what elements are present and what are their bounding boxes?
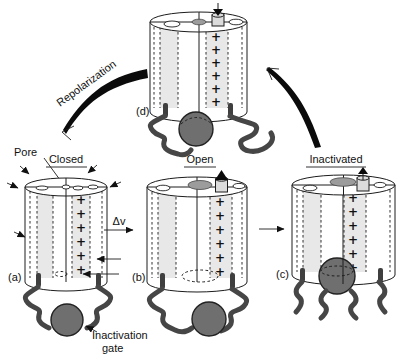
state-label-open: Open [187, 153, 214, 165]
subunit-opening [164, 21, 180, 27]
inactivation-ball [192, 302, 226, 336]
closed-pore-slit [88, 185, 98, 189]
panel-a-label: (a) [8, 271, 21, 283]
svg-text:+: + [76, 221, 86, 235]
svg-text:+: + [215, 237, 225, 251]
inactivation-ball [51, 304, 83, 336]
svg-text:+: + [348, 247, 358, 261]
svg-text:+: + [348, 233, 358, 247]
delta-v-label: Δv [113, 215, 126, 227]
state-label-inactivated: Inactivated [309, 153, 362, 165]
state-label-closed: Closed [49, 153, 83, 165]
closed-pore-slit [73, 186, 83, 190]
delta-v-arrow: Δv [104, 215, 133, 230]
panel-c-label: (c) [276, 268, 289, 280]
channel-gating-figure: Repolarization ++++++ (d) Por [0, 0, 405, 356]
subunit-opening [156, 185, 170, 191]
svg-text:+: + [76, 263, 86, 277]
channel-gating-diagram: Repolarization ++++++ (d) Por [0, 0, 405, 356]
voltage-sensor-band [303, 190, 321, 272]
channel-a-closed: ++++++ (a) [7, 165, 121, 336]
subunit-opening [229, 19, 243, 25]
voltage-sensor-band [160, 27, 178, 108]
svg-text:+: + [76, 207, 86, 221]
charge-column: ++++++ [76, 193, 86, 277]
plug-up-arrow-icon [215, 170, 228, 180]
charge-column: ++++++ [215, 195, 225, 279]
voltage-sensor-band [158, 192, 176, 278]
inactivation-gate-label-line2: gate [102, 342, 123, 354]
repolarization-arrow: Repolarization [54, 58, 148, 140]
tether-squiggle [149, 289, 192, 332]
svg-text:+: + [215, 223, 225, 237]
channel-d-repolarizing: ++++++ (d) [136, 3, 273, 155]
pore-label: Pore [14, 146, 37, 158]
voltage-sensor-band [37, 191, 53, 278]
channel-c-inactivated: ++++++ (c) [276, 167, 395, 318]
svg-text:+: + [348, 205, 358, 219]
tether-leg [379, 282, 385, 312]
tether-leg [321, 291, 326, 318]
tether-leg [296, 282, 302, 312]
tether-squiggle [25, 287, 49, 328]
svg-text:+: + [215, 209, 225, 223]
svg-text:+: + [211, 56, 221, 70]
svg-text:+: + [211, 43, 221, 57]
panel-d-label: (d) [136, 105, 149, 117]
svg-text:+: + [211, 95, 221, 109]
tether-leg [351, 291, 356, 318]
svg-text:+: + [211, 82, 221, 96]
inactivation-gate-label: Inactivation [92, 329, 148, 341]
panel-b-label: (b) [132, 271, 145, 283]
pore-opening [62, 185, 70, 189]
pore-opening [192, 19, 206, 25]
subunit-opening [374, 182, 386, 187]
svg-text:+: + [215, 251, 225, 265]
tether-squiggle [87, 287, 111, 328]
pore-opening [188, 181, 212, 190]
pore-opening [330, 178, 356, 187]
svg-text:+: + [348, 219, 358, 233]
subunit-opening [233, 183, 245, 188]
svg-text:+: + [76, 249, 86, 263]
subunit-opening [303, 185, 317, 191]
svg-text:+: + [211, 69, 221, 83]
charge-column: ++++++ [211, 30, 221, 109]
svg-text:+: + [215, 265, 225, 279]
svg-text:+: + [76, 235, 86, 249]
tether-squiggle [230, 116, 273, 151]
channel-b-open: ++++++ (b) [132, 170, 247, 336]
closed-pore-slit [36, 186, 48, 190]
svg-text:+: + [215, 195, 225, 209]
